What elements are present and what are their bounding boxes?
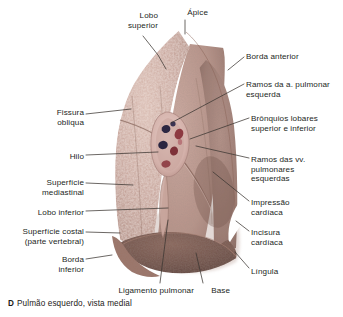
label-fissura-obliqua: Fissura obliqua [22,108,84,127]
label-ramos-vv-pulmonares: Ramos das vv. pulmonares esquerdas [251,155,341,184]
label-ramos-a-pulmonar: Ramos da a. pulmonar esquerda [246,80,342,99]
leader-lingula [235,252,249,268]
label-lingula: Língula [251,267,335,277]
panel-letter: D [8,299,14,308]
label-borda-inferior: Borda inferior [22,255,84,274]
leader-superficie-costal [86,232,120,233]
label-lobo-superior: Lobo superior [112,11,158,30]
label-ligamento-pulmonar: Ligamento pulmonar [98,286,194,296]
label-superficie-mediastinal: Superfície mediastinal [14,178,84,197]
vessel-highlight [178,139,182,145]
caption-text: Pulmão esquerdo, vista medial [17,299,132,308]
figure-caption: DPulmão esquerdo, vista medial [8,299,132,308]
label-apice: Ápice [172,8,208,18]
label-bronquios-lobares: Brônquios lobares superior e inferior [251,114,343,133]
label-base: Base [196,286,230,296]
label-hilo: Hilo [40,152,84,162]
label-incisura-cardiaca: Incisura cardíaca [251,228,335,247]
leader-borda-inferior [86,255,112,259]
label-lobo-inferior: Lobo inferior [8,208,84,218]
label-borda-anterior: Borda anterior [246,52,338,62]
leader-borda-anterior [228,57,244,70]
label-superficie-costal: Superfície costal (parte vertebral) [3,227,84,246]
label-impressao-cardiaca: Impressão cardíaca [251,198,335,217]
